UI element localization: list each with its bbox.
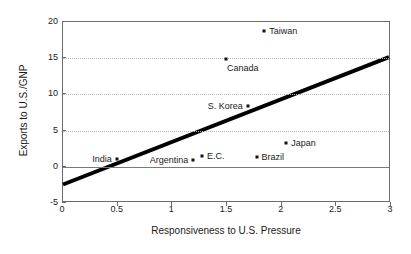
plot-area (62, 21, 390, 202)
x-tick-mark (117, 202, 118, 206)
scatter-chart-figure: Exports to U.S./GNP 20151050-5 Responsiv… (0, 0, 411, 254)
data-point[interactable] (255, 155, 258, 158)
gridline-y-5 (63, 131, 389, 132)
zero-reference-line (63, 167, 389, 168)
y-axis-tick-labels: 20151050-5 (20, 0, 58, 254)
x-tick-mark (226, 202, 227, 206)
x-tick-mark (335, 202, 336, 206)
y-tick-mark (62, 130, 66, 131)
x-axis-title: Responsiveness to U.S. Pressure (62, 225, 390, 236)
data-point[interactable] (192, 159, 195, 162)
data-point[interactable] (115, 157, 118, 160)
y-tick-mark (62, 166, 66, 167)
y-tick-label: 20 (48, 16, 58, 26)
x-tick-mark (390, 202, 391, 206)
y-tick-mark (62, 93, 66, 94)
point-label: Brazil (262, 152, 285, 162)
y-tick-mark (62, 57, 66, 58)
point-label: Argentina (150, 155, 189, 165)
x-tick-mark (281, 202, 282, 206)
trend-line-layer (63, 22, 389, 201)
point-label: Taiwan (269, 26, 297, 36)
data-point[interactable] (200, 154, 203, 157)
y-tick-label: 15 (48, 52, 58, 62)
point-label: India (92, 154, 112, 164)
y-tick-label: 5 (53, 125, 58, 135)
trend-line (63, 57, 389, 184)
x-tick-mark (171, 202, 172, 206)
gridline-y-10 (63, 94, 389, 95)
x-tick-label: 0 (59, 204, 64, 214)
data-point[interactable] (225, 58, 228, 61)
point-label: Canada (227, 63, 259, 73)
y-tick-label: 10 (48, 88, 58, 98)
data-point[interactable] (246, 105, 249, 108)
y-tick-mark (62, 202, 66, 203)
data-point[interactable] (263, 30, 266, 33)
y-tick-label: -5 (50, 197, 58, 207)
y-tick-label: 0 (53, 161, 58, 171)
point-label: E.C. (207, 151, 225, 161)
point-label: S. Korea (208, 101, 243, 111)
point-label: Japan (291, 138, 316, 148)
data-point[interactable] (285, 141, 288, 144)
y-tick-mark (62, 21, 66, 22)
